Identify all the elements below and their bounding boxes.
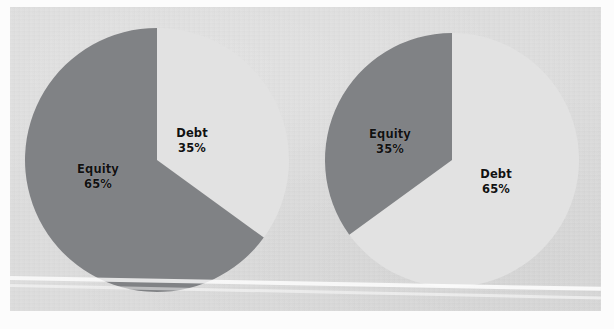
left-pie-chart: [25, 28, 289, 292]
right-pie-label-debt-percent: 65%: [460, 182, 532, 197]
left-pie-label-equity-name: Equity: [77, 162, 119, 176]
right-pie-label-equity-percent: 35%: [350, 142, 430, 157]
right-pie-label-debt: Debt 65%: [460, 167, 532, 196]
figure-root: Debt 35% Equity 65% Equity 35% Debt 65%: [0, 0, 614, 329]
right-pie-label-debt-name: Debt: [480, 167, 511, 181]
right-pie-chart: [325, 33, 579, 287]
left-pie-label-equity: Equity 65%: [60, 162, 136, 191]
left-pie-label-debt-percent: 35%: [156, 141, 228, 156]
left-pie-label-debt: Debt 35%: [156, 126, 228, 155]
right-pie-label-equity: Equity 35%: [350, 127, 430, 156]
right-pie-label-equity-name: Equity: [369, 127, 411, 141]
left-pie-label-equity-percent: 65%: [60, 177, 136, 192]
left-pie-label-debt-name: Debt: [176, 126, 207, 140]
